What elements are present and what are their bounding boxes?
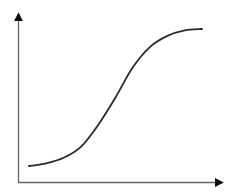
sigmoid-curve	[29, 29, 202, 166]
sigmoid-chart	[0, 0, 230, 192]
